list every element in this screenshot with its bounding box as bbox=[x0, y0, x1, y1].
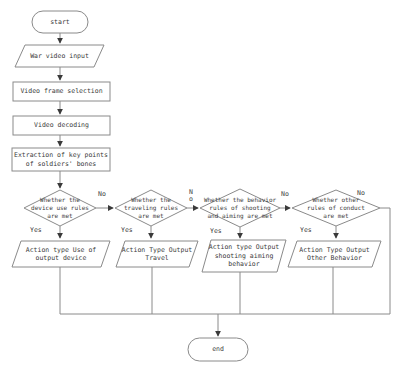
action-travel-shape bbox=[116, 241, 198, 267]
war-video-input-shape bbox=[15, 45, 104, 67]
action-device-shape bbox=[12, 241, 110, 267]
decision-other-shape bbox=[292, 190, 380, 226]
video-frame-selection-shape bbox=[13, 82, 110, 101]
action-other-shape bbox=[288, 241, 381, 267]
start-terminator-shape bbox=[32, 11, 88, 33]
edge-no-other-to-bus bbox=[380, 208, 390, 314]
end-terminator-shape bbox=[188, 338, 248, 361]
video-decoding-shape bbox=[13, 116, 110, 135]
decision-shooting-shape bbox=[200, 189, 280, 227]
decision-device-shape bbox=[24, 190, 96, 226]
action-shooting-shape bbox=[202, 240, 286, 272]
decision-travel-shape bbox=[115, 190, 187, 226]
flowchart-canvas bbox=[0, 0, 399, 372]
flowchart-figure: start War video input Video frame select… bbox=[0, 0, 399, 372]
extraction-shape bbox=[12, 148, 110, 171]
